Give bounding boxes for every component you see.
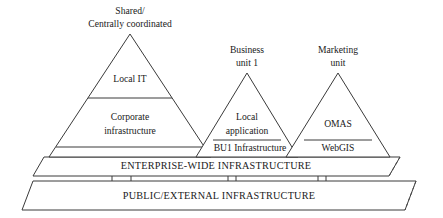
pyramid-marketing-unit: Marketing unit OMAS WebGIS — [286, 44, 390, 157]
band-connector-ticks — [112, 176, 326, 181]
pyramid-marketing-unit-caption-line1: Marketing — [318, 44, 358, 55]
pyramid-layer-local-application-line1: Local — [236, 111, 258, 122]
pyramid-marketing-unit-caption-line2: unit — [331, 57, 346, 68]
pyramid-business-unit-1: Business unit 1 Local application BU1 In… — [196, 44, 298, 157]
pyramid-business-unit-1-caption-line1: Business — [230, 44, 264, 55]
band-enterprise-wide-label: ENTERPRISE-WIDE INFRASTRUCTURE — [121, 160, 312, 171]
pyramid-layer-local-application-line2: application — [226, 125, 269, 136]
pyramid-business-unit-1-caption-line2: unit 1 — [236, 57, 258, 68]
pyramid-shared-central-caption-line2: Centrally coordinated — [88, 18, 172, 29]
pyramid-layer-webgis: WebGIS — [322, 142, 355, 153]
pyramid-layer-corporate-infrastructure-line2: infrastructure — [104, 125, 156, 136]
pyramid-layer-corporate-infrastructure-line1: Corporate — [111, 111, 149, 122]
pyramid-layer-omas: OMAS — [324, 118, 352, 129]
pyramid-layer-local-it: Local IT — [113, 73, 146, 84]
band-public-external-label: PUBLIC/EXTERNAL INFRASTRUCTURE — [123, 190, 316, 201]
infrastructure-pyramid-diagram: PUBLIC/EXTERNAL INFRASTRUCTURE ENTERPRIS… — [0, 0, 443, 218]
diagram-canvas: PUBLIC/EXTERNAL INFRASTRUCTURE ENTERPRIS… — [0, 0, 443, 218]
pyramid-shared-central: Shared/ Centrally coordinated Local IT C… — [49, 5, 211, 157]
band-public-external: PUBLIC/EXTERNAL INFRASTRUCTURE — [22, 181, 416, 210]
pyramid-layer-bu1-infrastructure: BU1 Infrastructure — [214, 142, 287, 153]
pyramid-shared-central-caption-line1: Shared/ — [115, 5, 145, 16]
band-enterprise-wide: ENTERPRISE-WIDE INFRASTRUCTURE — [33, 157, 400, 176]
pyramid-shared-central-outline — [49, 34, 211, 157]
